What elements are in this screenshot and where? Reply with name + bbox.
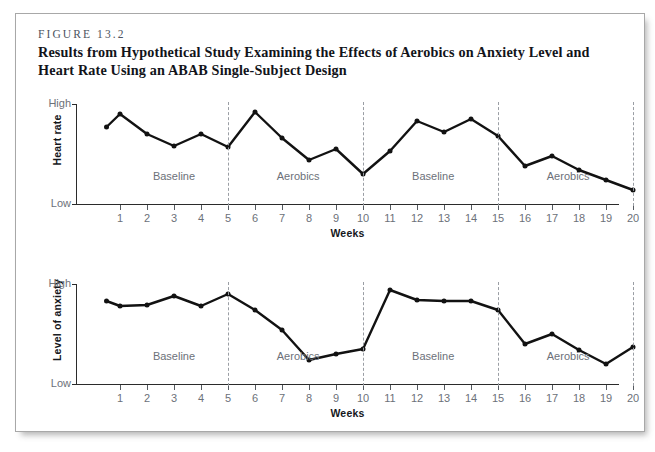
data-point <box>172 294 177 299</box>
phase-divider <box>228 102 229 206</box>
data-point <box>523 342 528 347</box>
x-tick-label: 15 <box>486 212 510 224</box>
data-point <box>550 332 555 337</box>
x-tick <box>147 385 148 390</box>
x-tick-label: 17 <box>540 212 564 224</box>
data-point <box>550 154 555 159</box>
plot-wrap-heart-rate: Heart rate High Low Weeks 12345678910111… <box>16 86 646 261</box>
x-tick <box>552 385 553 390</box>
x-tick-label: 20 <box>621 392 645 404</box>
x-tick <box>390 385 391 390</box>
y-label-low-anxiety: Low <box>29 377 71 389</box>
x-tick-label: 13 <box>432 212 456 224</box>
phase-divider <box>498 102 499 206</box>
x-tick <box>525 205 526 210</box>
phase-divider <box>363 282 364 386</box>
phase-divider <box>228 282 229 386</box>
phase-label-aerobics-3: Aerobics <box>523 350 613 362</box>
x-tick-label: 1 <box>108 392 132 404</box>
data-point <box>280 328 285 333</box>
data-point <box>199 132 204 137</box>
phase-label-baseline-0: Baseline <box>129 350 219 362</box>
x-tick-label: 18 <box>567 212 591 224</box>
data-point <box>253 308 258 313</box>
figure-header: FIGURE 13.2 Results from Hypothetical St… <box>38 28 618 79</box>
x-tick-label: 4 <box>189 392 213 404</box>
x-tick-label: 16 <box>513 212 537 224</box>
plot-area-anxiety <box>76 284 619 384</box>
data-point <box>334 147 339 152</box>
x-tick-label: 18 <box>567 392 591 404</box>
x-tick-label: 11 <box>378 212 402 224</box>
figure-frame: FIGURE 13.2 Results from Hypothetical St… <box>15 13 645 432</box>
x-tick <box>471 205 472 210</box>
x-tick <box>579 205 580 210</box>
x-tick <box>201 205 202 210</box>
x-tick-label: 20 <box>621 212 645 224</box>
x-tick <box>417 205 418 210</box>
x-tick <box>606 385 607 390</box>
x-tick <box>174 205 175 210</box>
x-tick <box>255 385 256 390</box>
data-point <box>104 125 109 130</box>
figure-number: FIGURE 13.2 <box>38 28 618 40</box>
data-point <box>253 110 258 115</box>
x-tick <box>525 385 526 390</box>
data-point <box>469 299 474 304</box>
x-tick-label: 10 <box>351 212 375 224</box>
x-tick-label: 2 <box>135 212 159 224</box>
data-point <box>307 158 312 163</box>
x-tick-label: 12 <box>405 392 429 404</box>
series-line-anxiety <box>76 284 619 388</box>
x-tick-label: 16 <box>513 392 537 404</box>
x-tick-label: 6 <box>243 212 267 224</box>
data-point <box>199 304 204 309</box>
y-label-low-heart-rate: Low <box>29 197 71 209</box>
x-tick <box>309 205 310 210</box>
x-tick <box>336 205 337 210</box>
plot-area-heart-rate <box>76 104 619 204</box>
x-tick-label: 8 <box>297 212 321 224</box>
x-tick-label: 19 <box>594 392 618 404</box>
phase-label-aerobics-3: Aerobics <box>523 170 613 182</box>
x-tick-label: 7 <box>270 212 294 224</box>
data-point <box>442 299 447 304</box>
x-tick-label: 9 <box>324 212 348 224</box>
phase-divider <box>633 282 634 386</box>
x-tick-label: 11 <box>378 392 402 404</box>
x-tick <box>120 205 121 210</box>
data-point <box>118 112 123 117</box>
y-label-high-heart-rate: High <box>29 97 71 109</box>
x-tick <box>444 205 445 210</box>
x-tick-label: 3 <box>162 392 186 404</box>
data-point <box>415 119 420 124</box>
x-tick-label: 10 <box>351 392 375 404</box>
x-tick-label: 14 <box>459 212 483 224</box>
data-point <box>118 304 123 309</box>
data-point <box>145 132 150 137</box>
x-axis-title-anxiety: Weeks <box>76 407 619 419</box>
x-tick-label: 15 <box>486 392 510 404</box>
phase-label-aerobics-1: Aerobics <box>253 170 343 182</box>
x-tick-label: 4 <box>189 212 213 224</box>
x-tick-label: 1 <box>108 212 132 224</box>
data-point <box>388 149 393 154</box>
x-tick-label: 3 <box>162 212 186 224</box>
phase-label-baseline-2: Baseline <box>388 350 478 362</box>
x-axis-title-heart-rate: Weeks <box>76 227 619 239</box>
x-tick <box>309 385 310 390</box>
x-tick-label: 6 <box>243 392 267 404</box>
series-line-heart-rate <box>76 104 619 208</box>
x-tick-label: 14 <box>459 392 483 404</box>
x-tick <box>444 385 445 390</box>
x-tick <box>606 205 607 210</box>
plot-wrap-anxiety: Level of anxiety High Low Weeks 12345678… <box>16 266 646 441</box>
x-tick <box>282 385 283 390</box>
figure-title: Results from Hypothetical Study Examinin… <box>38 44 618 79</box>
x-tick <box>255 205 256 210</box>
x-tick <box>147 205 148 210</box>
phase-label-baseline-2: Baseline <box>388 170 478 182</box>
x-tick <box>336 385 337 390</box>
x-tick <box>120 385 121 390</box>
x-tick-label: 5 <box>216 392 240 404</box>
